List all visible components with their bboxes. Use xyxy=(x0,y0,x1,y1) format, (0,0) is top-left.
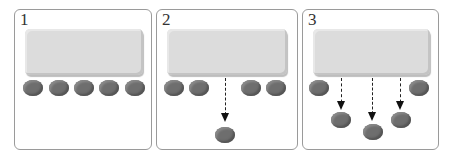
coin-dropped xyxy=(363,124,383,140)
coin xyxy=(49,80,69,96)
coin xyxy=(241,80,261,96)
panel-number: 3 xyxy=(308,11,317,29)
box xyxy=(167,29,287,75)
panel-number: 2 xyxy=(162,11,171,29)
panel-2: 2 xyxy=(156,9,298,150)
coin xyxy=(164,80,184,96)
coin-dropped xyxy=(215,127,235,143)
down-arrow-icon xyxy=(400,78,401,108)
coin xyxy=(309,80,329,96)
panel-1: 1 xyxy=(14,9,152,150)
coin xyxy=(189,80,209,96)
coin xyxy=(266,80,286,96)
coin-dropped xyxy=(391,112,411,128)
down-arrow-icon xyxy=(341,78,342,108)
coin xyxy=(74,80,94,96)
down-arrow-icon xyxy=(372,78,373,119)
coin-dropped xyxy=(331,112,351,128)
coin xyxy=(125,80,145,96)
down-arrow-icon xyxy=(225,78,226,120)
box xyxy=(25,29,143,75)
panel-3: 3 xyxy=(302,9,439,150)
coin xyxy=(23,80,43,96)
box xyxy=(313,29,430,75)
panel-number: 1 xyxy=(20,11,29,29)
coin xyxy=(99,80,119,96)
coin xyxy=(409,80,429,96)
